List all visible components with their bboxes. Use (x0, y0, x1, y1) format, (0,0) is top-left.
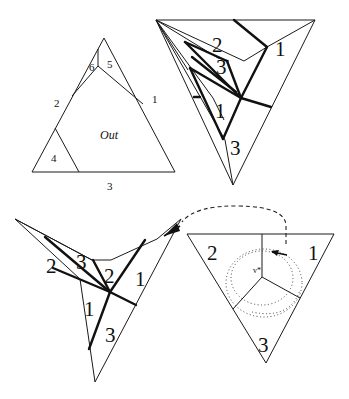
fig-c-label-2-left: 2 (46, 254, 57, 278)
fig-d-edge-right (262, 277, 300, 298)
dashed-connector-path (182, 206, 286, 244)
fig-a-edge (98, 66, 143, 104)
fig-c-label-1-mid: 1 (84, 297, 95, 321)
fig-b-thick-edge (234, 20, 267, 47)
fig-a-label-3: 3 (107, 180, 113, 192)
diagram-canvas: 6 5 2 1 Out 4 3 2 1 3 1 3 (0, 0, 349, 399)
fig-b-outer-triangle (156, 20, 315, 185)
fig-d-edge-left (233, 277, 262, 309)
fig-a-label-4: 4 (51, 152, 57, 164)
dashed-connector (164, 206, 286, 244)
fig-c-outer-polygon (15, 219, 181, 382)
fig-d-label-1: 1 (308, 241, 319, 265)
fig-c-label-1-right: 1 (135, 267, 146, 291)
fig-a-label-5: 5 (107, 58, 113, 70)
figure-d: 2 1 3 v* (187, 234, 334, 363)
fig-b-thick-edge (223, 98, 241, 139)
fig-d-label-vertex: v* (253, 266, 261, 275)
fig-b-label-2: 2 (212, 33, 223, 57)
fig-d-label-3: 3 (258, 333, 269, 357)
fig-a-label-out: Out (100, 128, 119, 142)
fig-b-thick-edge (241, 98, 271, 107)
fig-a-label-6: 6 (89, 61, 95, 73)
fig-c-label-3-bottom: 3 (105, 323, 116, 347)
figure-a: 6 5 2 1 Out 4 3 (32, 38, 175, 192)
fig-a-label-2: 2 (54, 97, 60, 109)
fig-b-label-1-mid: 1 (215, 99, 226, 123)
figure-c: 2 3 2 1 1 3 (15, 219, 181, 382)
fig-d-arrow-head (271, 250, 279, 256)
fig-b-fan-edge (156, 20, 213, 98)
fig-c-thick-edge (110, 292, 136, 305)
fig-a-edge (55, 128, 79, 172)
fig-a-label-1: 1 (152, 93, 158, 105)
fig-b-label-3-bottom: 3 (230, 136, 241, 160)
fig-b-label-1-top: 1 (275, 37, 286, 61)
fig-d-dotted-orbit (226, 249, 302, 317)
fig-b-label-3-top: 3 (216, 55, 227, 79)
figure-b: 2 1 3 1 3 (156, 20, 315, 185)
fig-c-label-3-top: 3 (76, 250, 87, 274)
fig-d-label-2: 2 (207, 241, 218, 265)
fig-c-label-2-mid: 2 (104, 264, 115, 288)
